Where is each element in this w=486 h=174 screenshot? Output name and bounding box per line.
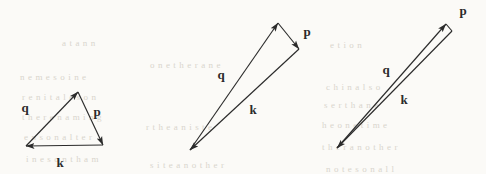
panel-2-label-q: q [217,67,225,82]
panel-2-vector-q [190,23,278,150]
panel-1-label-q: q [21,100,29,115]
panel-2-vector-k [190,49,299,150]
panel-2-vector-p [278,23,299,49]
panel-3-label-k: k [400,92,408,107]
panel-3-collinear-sliver: q p k [337,3,467,148]
panel-3-vector-k [337,31,452,148]
vector-triangle-figure: a t a n nn e m e s o i n er e n i t a l … [0,0,486,174]
panel-1-vector-k [26,145,103,146]
panel-1-wide-triangle: q p k [21,92,103,170]
panel-2-label-k: k [249,102,257,117]
panel-1-vector-q [26,92,78,146]
panel-2-narrow-triangle: q p k [190,23,311,150]
panel-1-label-p: p [93,104,100,119]
panel-3-label-q: q [382,62,390,77]
panel-3-vector-p [446,24,452,31]
panel-3-label-p: p [459,3,466,18]
panel-3-vector-q [337,24,446,148]
panel-2-label-p: p [303,24,310,39]
panel-1-label-k: k [56,155,64,170]
vector-diagram-canvas: q p k q p k q p k [0,0,486,174]
